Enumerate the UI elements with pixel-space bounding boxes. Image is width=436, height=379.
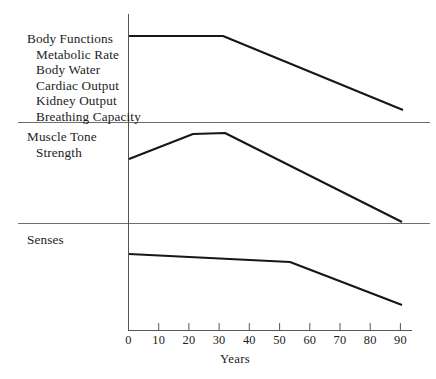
x-axis-ticks bbox=[129, 323, 401, 331]
x-tick-label-80: 80 bbox=[355, 333, 385, 348]
panel-item-kidney-output: Kidney Output bbox=[27, 93, 141, 109]
panel-label-muscle-tone: Muscle Tone Strength bbox=[27, 129, 97, 160]
panel-heading-senses: Senses bbox=[27, 232, 64, 248]
x-tick-label-30: 30 bbox=[204, 333, 234, 348]
x-tick-label-70: 70 bbox=[325, 333, 355, 348]
panel-item-strength: Strength bbox=[27, 145, 97, 161]
x-tick-label-90: 90 bbox=[385, 333, 415, 348]
x-tick-label-60: 60 bbox=[295, 333, 325, 348]
panel-heading-body-functions: Body Functions bbox=[27, 31, 141, 47]
panel-item-metabolic-rate: Metabolic Rate bbox=[27, 47, 141, 63]
x-axis-title-text: Years bbox=[220, 352, 250, 366]
x-tick-label-20: 20 bbox=[174, 333, 204, 348]
panel-item-breathing-capacity: Breathing Capacity bbox=[27, 109, 141, 125]
x-axis-title: Years bbox=[0, 352, 436, 367]
series-line-body-functions bbox=[129, 36, 403, 110]
series-line-muscle-tone bbox=[129, 133, 402, 222]
panel-label-body-functions: Body Functions Metabolic Rate Body Water… bbox=[27, 31, 141, 125]
panel-item-body-water: Body Water bbox=[27, 62, 141, 78]
panel-item-cardiac-output: Cardiac Output bbox=[27, 78, 141, 94]
panel-heading-muscle-tone: Muscle Tone bbox=[27, 129, 97, 145]
x-tick-label-40: 40 bbox=[234, 333, 264, 348]
x-tick-label-0: 0 bbox=[114, 333, 144, 348]
series-line-senses bbox=[129, 254, 402, 305]
x-tick-label-10: 10 bbox=[144, 333, 174, 348]
panel-label-senses: Senses bbox=[27, 232, 64, 248]
aging-decline-figure: Body Functions Metabolic Rate Body Water… bbox=[0, 0, 436, 379]
x-tick-label-50: 50 bbox=[265, 333, 295, 348]
